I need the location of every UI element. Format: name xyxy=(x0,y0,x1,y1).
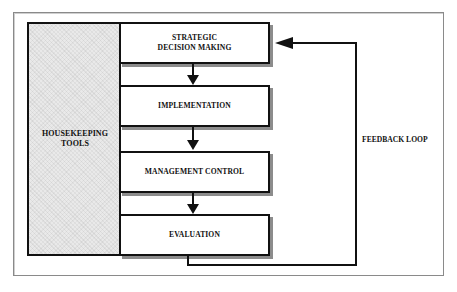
housekeeping-tools-panel: HOUSEKEEPING TOOLS xyxy=(27,22,121,256)
down-arrow-icon xyxy=(187,127,199,151)
step-label: MANAGEMENT CONTROL xyxy=(145,167,244,177)
step-evaluation: EVALUATION xyxy=(119,214,270,256)
step-implementation: IMPLEMENTATION xyxy=(119,85,270,127)
step-label: IMPLEMENTATION xyxy=(158,101,231,111)
down-arrow-icon xyxy=(187,193,199,214)
step-label: EVALUATION xyxy=(169,230,220,240)
left-arrow-icon xyxy=(275,37,293,49)
feedback-loop-label: FEEDBACK LOOP xyxy=(362,135,428,145)
step-management-control: MANAGEMENT CONTROL xyxy=(119,151,270,193)
feedback-line-vertical xyxy=(355,42,357,266)
step-strategic-decision-making: STRATEGIC DECISION MAKING xyxy=(119,22,270,64)
step-label: STRATEGIC DECISION MAKING xyxy=(158,33,232,53)
housekeeping-tools-label: HOUSEKEEPING TOOLS xyxy=(42,129,108,149)
down-arrow-icon xyxy=(187,64,199,85)
feedback-line-top xyxy=(290,42,357,44)
feedback-line-bottom xyxy=(187,264,357,266)
